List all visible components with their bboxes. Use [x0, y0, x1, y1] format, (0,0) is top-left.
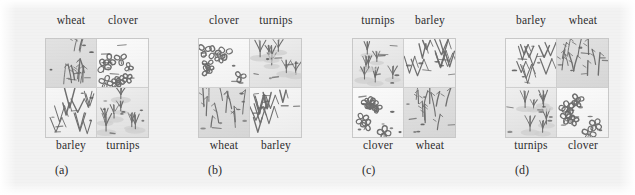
crop-label-top-right: wheat	[557, 14, 609, 26]
plot-cell-barley	[404, 39, 455, 88]
panel-b: clover turnips wheat barley (b)	[198, 0, 302, 195]
crop-label-bottom-left: barley	[45, 139, 97, 151]
crop-label-bottom-right: wheat	[404, 139, 456, 151]
crop-label-bottom-right: barley	[250, 139, 302, 151]
panel-c-bottom-labels: clover wheat	[352, 139, 456, 151]
plot-cell-turnips	[506, 88, 557, 137]
panel-c: turnips barley clover wheat (c)	[352, 0, 456, 195]
crop-label-bottom-left: wheat	[198, 139, 250, 151]
panel-a-caption: (a)	[55, 163, 68, 178]
plot-cell-barley	[250, 88, 301, 137]
plot-cell-wheat	[557, 39, 608, 88]
plot-cell-wheat	[404, 88, 455, 137]
plot-cell-turnips	[250, 39, 301, 88]
crop-label-top-right: clover	[97, 14, 149, 26]
panel-d: barley wheat turnips clover (d)	[505, 0, 609, 195]
crop-label-top-left: clover	[198, 14, 250, 26]
panel-b-caption: (b)	[208, 163, 222, 178]
crop-label-top-left: barley	[505, 14, 557, 26]
panel-c-caption: (c)	[362, 163, 375, 178]
crop-label-bottom-left: turnips	[505, 139, 557, 151]
panel-d-caption: (d)	[515, 163, 529, 178]
panel-d-top-labels: barley wheat	[505, 14, 609, 26]
plot-cell-clover	[353, 88, 404, 137]
plot-cell-turnips	[97, 88, 148, 137]
plot-cell-clover	[199, 39, 250, 88]
panel-b-plot-grid	[198, 38, 302, 138]
panel-d-plot-grid	[505, 38, 609, 138]
plot-cell-wheat	[46, 39, 97, 88]
crop-label-top-left: wheat	[45, 14, 97, 26]
crop-label-bottom-left: clover	[352, 139, 404, 151]
plot-cell-wheat	[199, 88, 250, 137]
crop-label-top-right: turnips	[250, 14, 302, 26]
plot-cell-clover	[557, 88, 608, 137]
panel-c-plot-grid	[352, 38, 456, 138]
plot-cell-barley	[46, 88, 97, 137]
crop-label-top-left: turnips	[352, 14, 404, 26]
panel-d-bottom-labels: turnips clover	[505, 139, 609, 151]
panel-a-bottom-labels: barley turnips	[45, 139, 149, 151]
crop-label-top-right: barley	[404, 14, 456, 26]
plot-cell-turnips	[353, 39, 404, 88]
crop-label-bottom-right: clover	[557, 139, 609, 151]
panel-b-top-labels: clover turnips	[198, 14, 302, 26]
plot-cell-barley	[506, 39, 557, 88]
plot-cell-clover	[97, 39, 148, 88]
crop-label-bottom-right: turnips	[97, 139, 149, 151]
crop-rotation-figure: wheat clover barley turnips (a) clover t…	[0, 0, 635, 195]
panel-c-top-labels: turnips barley	[352, 14, 456, 26]
panel-a-plot-grid	[45, 38, 149, 138]
panel-a-top-labels: wheat clover	[45, 14, 149, 26]
panel-a: wheat clover barley turnips (a)	[45, 0, 149, 195]
panel-b-bottom-labels: wheat barley	[198, 139, 302, 151]
